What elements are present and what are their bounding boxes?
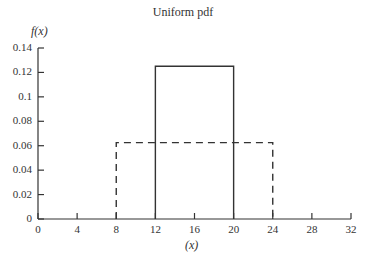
plot-area (0, 0, 366, 263)
dashed-pdf-line (116, 143, 273, 219)
